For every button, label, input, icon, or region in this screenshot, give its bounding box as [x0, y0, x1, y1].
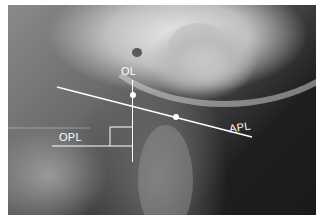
- ol-label: OL: [121, 65, 136, 77]
- annotation-overlay: [0, 0, 321, 223]
- opl-label: OPL: [59, 131, 82, 143]
- landmark-dot-lower: [173, 114, 179, 120]
- landmark-dot-upper: [130, 92, 136, 98]
- apl-line: [57, 87, 252, 137]
- right-angle-marker: [110, 127, 132, 146]
